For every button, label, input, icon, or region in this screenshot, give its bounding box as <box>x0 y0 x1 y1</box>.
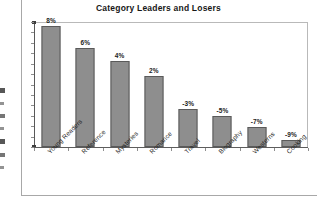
bar-slot: 2% <box>137 22 171 147</box>
bar[interactable] <box>110 61 129 148</box>
bar-value-label: -3% <box>182 100 194 107</box>
bar-slot: 4% <box>103 22 137 147</box>
bar-value-label: -5% <box>216 107 228 114</box>
bar-value-label: 4% <box>115 52 125 59</box>
bar-slot: -9% <box>274 22 308 147</box>
scanned-page: Category Leaders and Losers 8%6%4%2%-3%-… <box>0 0 317 202</box>
page-gutter-rule <box>21 0 22 196</box>
bar[interactable] <box>76 48 95 147</box>
bar-slot: -5% <box>205 22 239 147</box>
x-axis-category-labels: Young ReadersReferenceMysteriesRomanceTr… <box>34 150 308 200</box>
bar-value-label: -9% <box>285 131 297 138</box>
bar-slot: -7% <box>240 22 274 147</box>
chart-title: Category Leaders and Losers <box>0 3 317 13</box>
bar-slot: 8% <box>34 22 68 147</box>
bar-slot: -3% <box>171 22 205 147</box>
bar-value-label: 6% <box>81 39 91 46</box>
bar-value-label: -7% <box>251 118 263 125</box>
bar[interactable] <box>42 26 61 147</box>
bar-value-label: 2% <box>149 67 159 74</box>
x-axis-tick <box>308 148 309 151</box>
bar-value-label: 8% <box>46 17 56 24</box>
cut-off-text-sliver <box>0 88 7 192</box>
